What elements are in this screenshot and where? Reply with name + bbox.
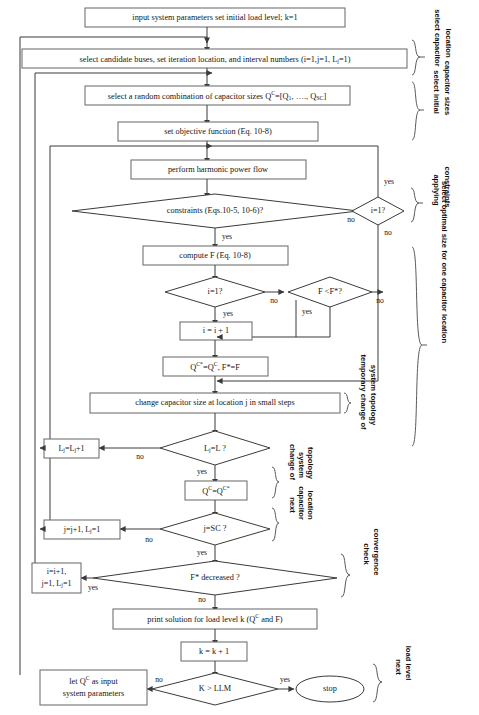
node-i1-mid-label: i=1? [208, 287, 223, 296]
node-select-buses[interactable]: select candidate buses, set iteration lo… [22, 49, 407, 68]
group-label-next-cap-line3: location [306, 490, 315, 519]
group-temporary-change: temporary change of system topology [344, 354, 378, 430]
group-label-select-initial-line1: select initial [432, 70, 441, 113]
node-i-increment-label: i = i + 1 [203, 326, 229, 335]
group-label-check-line1: check [362, 543, 371, 565]
group-check-convergence: check convergence [341, 529, 381, 597]
node-stop-terminal[interactable]: stop [296, 676, 364, 702]
node-lj-equals-l-label: Lj=L ? [204, 443, 226, 452]
node-i-j-reset-line2: j=1, Lj=1 [41, 579, 72, 589]
flowchart-svg: input system parameters set initial load… [0, 0, 479, 715]
edge-label-i1mid-no: no [270, 296, 278, 305]
group-select-initial-capacitor-sizes: select initial capacitor sizes [412, 61, 452, 140]
edge-label-jsc-yes: yes [197, 548, 207, 557]
node-fstar-decreased-decision[interactable]: F* decreased ? [93, 561, 337, 595]
edge-label-i1right-yes: yes [384, 177, 394, 186]
group-label-next-load-line2: load level [404, 646, 413, 681]
node-harmonic-power-flow-label: perform harmonic power flow [168, 165, 268, 174]
node-k-increment-label: k = k + 1 [199, 647, 229, 656]
node-harmonic-power-flow[interactable]: perform harmonic power flow [131, 160, 306, 179]
group-label-select-initial-line2: capacitor sizes [443, 61, 452, 115]
node-input-params[interactable]: input system parameters set initial load… [85, 8, 345, 27]
group-label-temporary-line2: system topology [369, 365, 378, 426]
group-label-select-capacitor-location-line2: location [444, 28, 453, 57]
node-qc-restore[interactable]: QC=QC* [185, 481, 247, 500]
node-lj-increment[interactable]: Lj=Lj+1 [44, 439, 99, 458]
node-compute-f[interactable]: compute F (Eq. 10-8) [143, 246, 288, 265]
node-i1-right-decision[interactable]: i=1? [352, 197, 404, 225]
node-fstar-decreased-label: F* decreased ? [190, 573, 240, 582]
node-f-less-fstar-label: F <F*? [318, 287, 342, 296]
node-random-combination[interactable]: select a random combination of capacitor… [85, 86, 350, 105]
edge-label-fdec-no: no [198, 595, 206, 604]
node-j-equals-sc-label: j=SC ? [203, 524, 227, 533]
node-let-qc-line2: system parameters [63, 689, 125, 698]
edge-label-i1mid-yes: yes [223, 309, 233, 318]
rail-lj-return [50, 146, 207, 466]
node-k-gt-llm-label: K > LLM [199, 684, 232, 693]
group-label-change-of-line3: topology [306, 447, 315, 480]
edge-label-i1right-no: no [384, 228, 392, 237]
edge-label-kllm-yes: yes [280, 675, 290, 684]
node-print-solution-label: print solution for load level k (QC and … [147, 613, 283, 624]
node-print-solution[interactable]: print solution for load level k (QC and … [113, 609, 317, 629]
edge-label-kllm-no: no [155, 675, 163, 684]
group-label-check-line2: convergence [372, 529, 381, 576]
node-qc-assign[interactable]: QC*=QC, F*=F [163, 357, 268, 376]
node-lj-equals-l-decision[interactable]: Lj=L ? [160, 431, 270, 465]
node-lj-increment-label: Lj=Lj+1 [58, 444, 84, 454]
edge-label-fstar-no: no [376, 296, 384, 305]
group-label-next-cap-line2: capacitor [297, 486, 306, 520]
group-label-next-load-line1: next [394, 659, 403, 675]
node-change-cap-size-label: change capacitor size at location j in s… [135, 398, 294, 407]
node-k-gt-llm-decision[interactable]: K > LLM [152, 673, 278, 705]
group-label-select-capacitor-location-line1: select capacitor [433, 9, 442, 66]
node-objective-function[interactable]: set objective function (Eq. 10-8) [118, 122, 318, 141]
node-stop-label: stop [323, 684, 337, 693]
node-i1-mid-decision[interactable]: i=1? [165, 277, 265, 307]
node-change-cap-size[interactable]: change capacitor size at location j in s… [90, 393, 340, 413]
node-j-increment[interactable]: j=j+1, Lj=1 [44, 520, 120, 539]
node-k-increment[interactable]: k = k + 1 [181, 642, 247, 661]
node-let-qc-input[interactable]: let QC as input system parameters [40, 670, 147, 705]
edge-label-constraints-yes: yes [222, 232, 232, 241]
node-i-j-reset[interactable]: i=i+1, j=1, Lj=1 [32, 563, 81, 593]
node-select-buses-label: select candidate buses, set iteration lo… [80, 54, 351, 63]
edge-label-fdec-yes: yes [88, 583, 98, 592]
group-label-select-optimal-size: select optimal size for one capacitor lo… [440, 181, 449, 343]
node-f-less-fstar-decision[interactable]: F <F*? [288, 277, 372, 307]
node-i1-right-label: i=1? [371, 206, 386, 215]
edge-label-fstar-yes: yes [302, 307, 312, 316]
group-next-load-level: next load level [373, 646, 413, 702]
edge-label-constraints-no: no [347, 215, 355, 224]
flowchart-container: input system parameters set initial load… [0, 0, 479, 715]
edge-label-ljl-no: no [136, 452, 144, 461]
group-label-change-of-line1: change of [288, 444, 297, 480]
group-label-applying-line1: applying [432, 174, 441, 206]
group-label-temporary-line1: temporary change of [359, 354, 368, 430]
node-i-increment[interactable]: i = i + 1 [180, 322, 252, 340]
node-compute-f-label: compute F (Eq. 10-8) [179, 251, 251, 260]
node-input-params-label: input system parameters set initial load… [132, 13, 297, 22]
group-label-next-cap-line1: next [288, 497, 297, 513]
node-i-j-reset-line1: i=i+1, [47, 567, 66, 576]
node-let-qc-line1: let QC as input [69, 675, 118, 686]
edge-label-ljl-yes: yes [197, 467, 207, 476]
node-j-increment-label: j=j+1, Lj=1 [63, 525, 101, 535]
node-j-equals-sc-decision[interactable]: j=SC ? [160, 513, 270, 545]
group-next-capacitor-location: next capacitor location [272, 486, 315, 541]
node-random-combination-label: select a random combination of capacitor… [108, 90, 327, 101]
group-select-optimal-size: select optimal size for one capacitor lo… [412, 181, 449, 446]
group-label-change-of-line2: system [297, 452, 306, 478]
node-objective-function-label: set objective function (Eq. 10-8) [164, 127, 272, 136]
node-constraints-label: constraints (Eqs.10-5, 10-6)? [167, 206, 264, 215]
node-constraints-decision[interactable]: constraints (Eqs.10-5, 10-6)? [72, 194, 358, 228]
edge-label-jsc-no: no [145, 535, 153, 544]
